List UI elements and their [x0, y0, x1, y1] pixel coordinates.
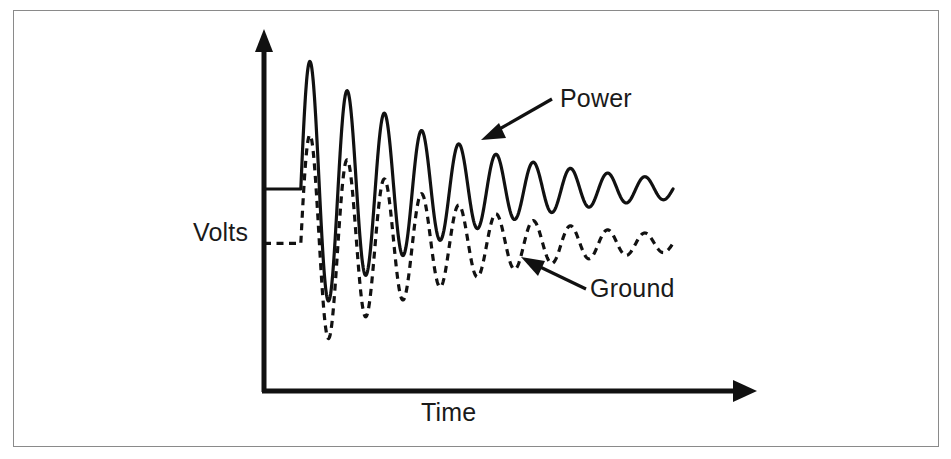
figure-root: Volts Time Power Ground — [0, 0, 951, 459]
x-axis-label: Time — [421, 400, 476, 425]
y-axis-label: Volts — [193, 220, 248, 245]
axis-arrow-right — [733, 380, 757, 402]
dashed-trace-ground — [264, 135, 673, 339]
vertical-axis — [255, 29, 273, 392]
power-series-label: Power — [560, 86, 632, 111]
axis-arrow-up — [255, 29, 273, 52]
ground-series-label: Ground — [590, 276, 675, 301]
horizontal-axis — [262, 380, 757, 402]
waveform-plot — [0, 0, 951, 459]
power-annotation-arrow — [481, 99, 552, 140]
